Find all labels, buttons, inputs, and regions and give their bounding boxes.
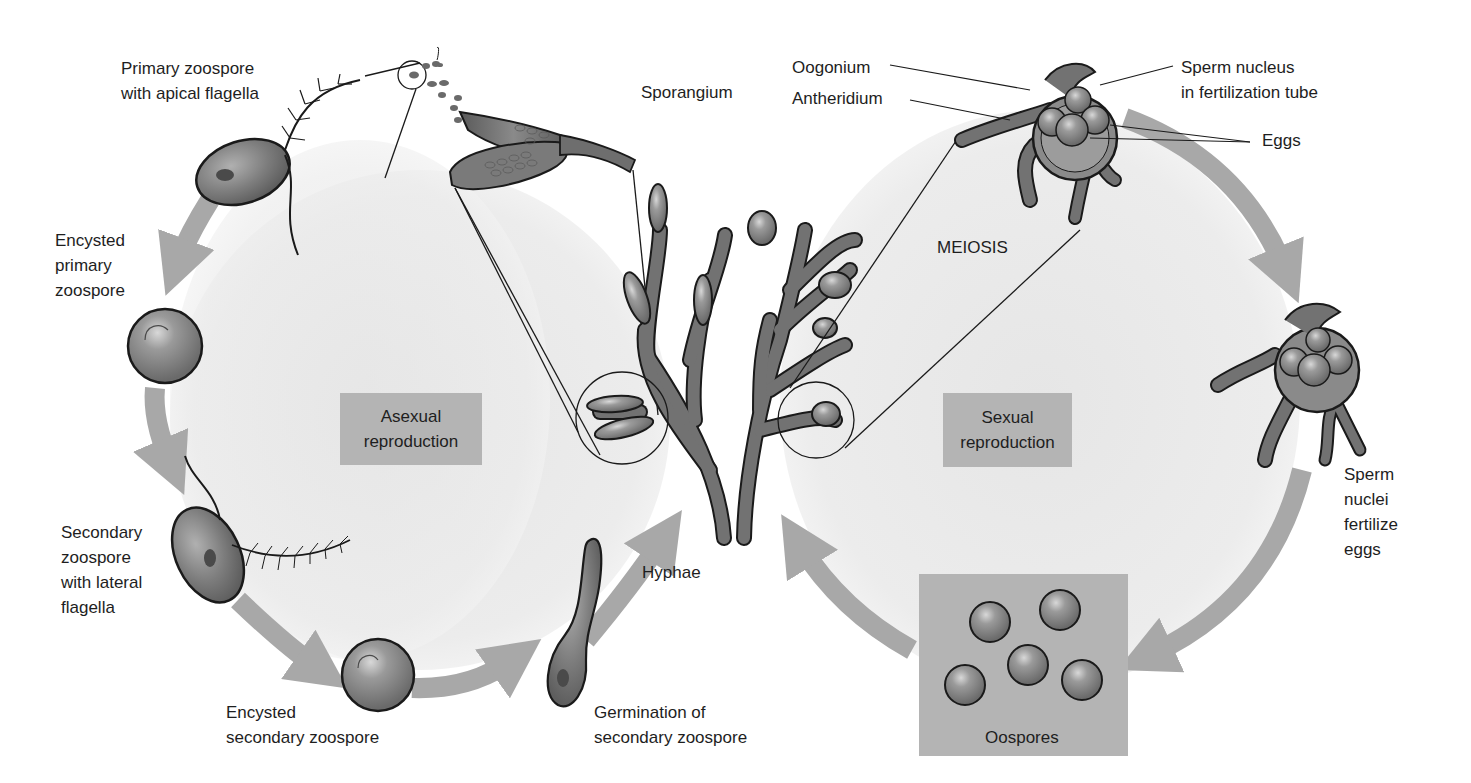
- encysted-primary-label: Encysted primary zoospore: [55, 228, 125, 303]
- secondary-zoospore-label: Secondary zoospore with lateral flagella: [61, 520, 142, 620]
- eggs-label: Eggs: [1262, 128, 1301, 153]
- sexual-reproduction-box: Sexual reproduction: [943, 393, 1072, 467]
- diagram-artwork: [0, 0, 1471, 783]
- asexual-reproduction-label: Asexual reproduction: [364, 404, 459, 454]
- encysted-secondary-label: Encysted secondary zoospore: [226, 700, 379, 750]
- antheridium-label: Antheridium: [792, 86, 883, 111]
- oogonium-label: Oogonium: [792, 55, 870, 80]
- germination-label: Germination of secondary zoospore: [594, 700, 747, 750]
- oomycete-life-cycle-diagram: Asexual reproduction Sexual reproduction…: [0, 0, 1471, 783]
- meiosis-label: MEIOSIS: [937, 235, 1008, 260]
- sexual-reproduction-label: Sexual reproduction: [960, 405, 1055, 455]
- arrow-encysted-to-secondary: [155, 388, 170, 462]
- hyphae-label: Hyphae: [642, 560, 701, 585]
- oospores-label: Oospores: [985, 725, 1059, 750]
- primary-zoospore-label: Primary zoospore with apical flagella: [121, 56, 259, 106]
- sporangium-label: Sporangium: [641, 80, 733, 105]
- asexual-reproduction-box: Asexual reproduction: [340, 393, 482, 465]
- sperm-nuclei-fertilize-label: Sperm nuclei fertilize eggs: [1344, 462, 1398, 562]
- sperm-nucleus-label: Sperm nucleus in fertilization tube: [1181, 55, 1318, 105]
- encysted-primary-zoospore-cell: [128, 309, 202, 383]
